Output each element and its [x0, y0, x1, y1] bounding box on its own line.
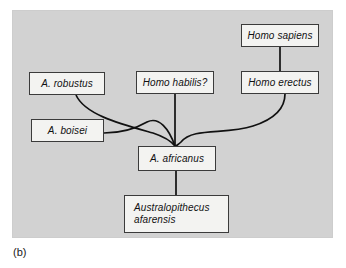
taxon-box-a-boisei[interactable]: A. boisei — [31, 119, 104, 142]
taxon-box-a-afarensis[interactable]: Australopithecusafarensis — [124, 195, 229, 233]
taxon-box-a-africanus[interactable]: A. africanus — [138, 146, 216, 171]
taxon-label-a-boisei: A. boisei — [48, 125, 87, 137]
diagram-panel: Homo sapiens Homo erectus Homo habilis? … — [12, 10, 333, 238]
taxon-label-a-robustus: A. robustus — [41, 78, 93, 90]
taxon-box-a-robustus[interactable]: A. robustus — [29, 72, 105, 95]
taxon-label-homo-habilis: Homo habilis? — [143, 77, 208, 89]
edge-boisei-africanus — [104, 121, 175, 146]
figure-root: Homo sapiens Homo erectus Homo habilis? … — [0, 0, 346, 268]
taxon-label-homo-erectus: Homo erectus — [248, 77, 311, 89]
figure-caption: (b) — [13, 246, 26, 258]
taxon-box-homo-habilis[interactable]: Homo habilis? — [136, 71, 214, 94]
taxon-label-a-afarensis: Australopithecusafarensis — [134, 202, 210, 226]
taxon-box-homo-erectus[interactable]: Homo erectus — [241, 71, 319, 94]
taxon-label-homo-sapiens: Homo sapiens — [247, 30, 312, 42]
taxon-label-a-africanus: A. africanus — [150, 153, 204, 165]
taxon-label-a-afarensis-line2: afarensis — [134, 214, 175, 225]
taxon-box-homo-sapiens[interactable]: Homo sapiens — [241, 24, 319, 47]
edge-erectus-africanus — [176, 94, 285, 146]
taxon-label-a-afarensis-line1: Australopithecus — [134, 202, 210, 213]
